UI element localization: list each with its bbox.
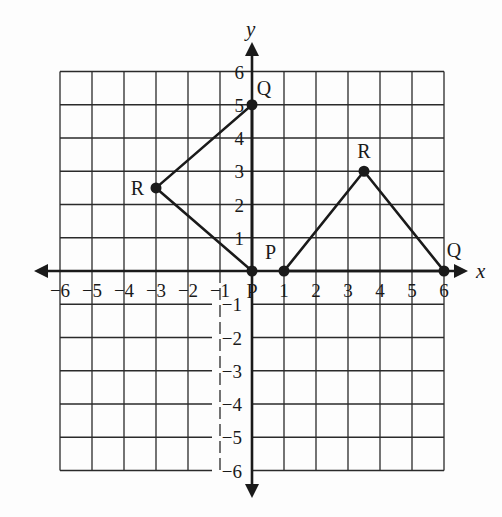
y-axis-up-arrow-icon	[245, 42, 259, 56]
y-tick-label: −4	[222, 394, 243, 415]
y-axis-down-arrow-icon	[245, 484, 259, 498]
vertex-point-q	[247, 99, 258, 110]
x-axis-right-arrow-icon	[454, 264, 468, 278]
vertex-point-p	[279, 266, 290, 277]
vertex-label-r: R	[357, 140, 371, 162]
y-axis-label: y	[244, 17, 256, 41]
right-triangle	[284, 171, 444, 271]
x-tick-label: −3	[146, 280, 166, 301]
x-tick-label: 6	[439, 280, 449, 301]
y-tick-label: −5	[222, 427, 242, 448]
x-tick-label: 1	[279, 280, 289, 301]
x-tick-label: −2	[178, 280, 198, 301]
y-tick-label: 6	[235, 62, 245, 83]
x-tick-label: −6	[50, 280, 70, 301]
vertex-label-q: Q	[257, 77, 272, 99]
coordinate-grid: xy−6−5−4−3−2−1123456654321−1−2−3−4−5−6PQ…	[0, 0, 502, 517]
x-axis-left-arrow-icon	[34, 264, 48, 278]
vertex-label-r: R	[131, 177, 145, 199]
x-tick-label: −5	[82, 280, 102, 301]
vertex-point-p	[247, 266, 258, 277]
vertex-point-r	[359, 166, 370, 177]
x-axis-label: x	[475, 259, 486, 283]
y-tick-label: −1	[222, 294, 242, 315]
y-tick-label: −3	[222, 361, 242, 382]
vertex-label-p: P	[265, 241, 276, 263]
y-tick-label: −2	[222, 328, 242, 349]
vertex-point-r	[151, 182, 162, 193]
y-tick-label: 1	[235, 228, 245, 249]
x-tick-label: 2	[311, 280, 321, 301]
vertex-point-q	[439, 266, 450, 277]
x-tick-label: −4	[114, 280, 135, 301]
x-tick-label: 3	[343, 280, 353, 301]
x-tick-label: 5	[407, 280, 417, 301]
y-tick-label: 4	[235, 128, 245, 149]
coordinate-plane-figure: xy−6−5−4−3−2−1123456654321−1−2−3−4−5−6PQ…	[0, 0, 502, 517]
vertex-label-p: P	[246, 280, 257, 302]
vertex-label-q: Q	[447, 239, 462, 261]
y-tick-label: −6	[222, 461, 242, 482]
x-tick-label: 4	[375, 280, 385, 301]
y-tick-label: 2	[235, 195, 245, 216]
y-tick-label: 3	[235, 161, 245, 182]
